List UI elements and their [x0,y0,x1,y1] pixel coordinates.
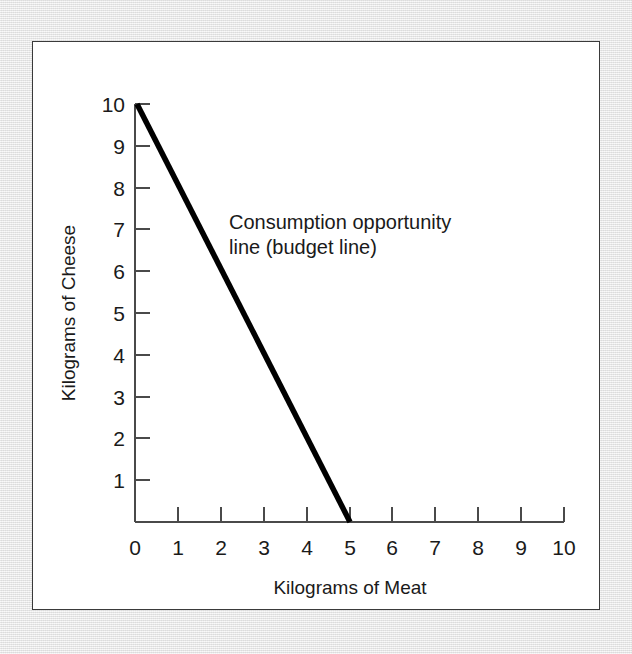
y-tick-label-8: 8 [113,177,125,200]
x-tick-label-0: 0 [129,536,141,559]
x-tick-label-6: 6 [386,536,398,559]
y-tick-label-1: 1 [113,469,125,492]
cut-off-text-above [86,0,246,5]
annotation-line-2: line (budget line) [229,236,377,258]
x-tick-label-5: 5 [344,536,356,559]
y-axis-title: Kilograms of Cheese [58,225,79,401]
y-tick-label-10: 10 [102,93,125,116]
figure-frame: 10 9 8 7 6 5 4 3 2 1 0 1 [32,41,600,610]
x-tick-label-4: 4 [301,536,313,559]
y-tick-label-2: 2 [113,427,125,450]
x-tick-label-8: 8 [472,536,484,559]
annotation-line-1: Consumption opportunity [229,211,451,233]
x-axis-title: Kilograms of Meat [273,577,427,598]
y-tick-label-9: 9 [113,135,125,158]
y-axis-tick-labels: 10 9 8 7 6 5 4 3 2 1 [102,93,126,492]
x-tick-label-2: 2 [215,536,227,559]
x-tick-label-3: 3 [258,536,270,559]
y-tick-label-3: 3 [113,386,125,409]
budget-line-annotation: Consumption opportunity line (budget lin… [229,211,451,258]
y-tick-label-6: 6 [113,260,125,283]
x-tick-label-1: 1 [172,536,184,559]
y-tick-label-7: 7 [113,218,125,241]
y-axis-ticks [135,104,150,480]
x-tick-label-7: 7 [429,536,441,559]
x-axis-tick-labels: 0 1 2 3 4 5 6 7 8 9 10 [129,536,576,559]
y-tick-label-4: 4 [113,344,125,367]
chart-plot-area: 10 9 8 7 6 5 4 3 2 1 0 1 [33,42,599,609]
x-tick-label-10: 10 [552,536,575,559]
budget-line-series [137,104,350,522]
x-tick-label-9: 9 [515,536,527,559]
y-tick-label-5: 5 [113,302,125,325]
